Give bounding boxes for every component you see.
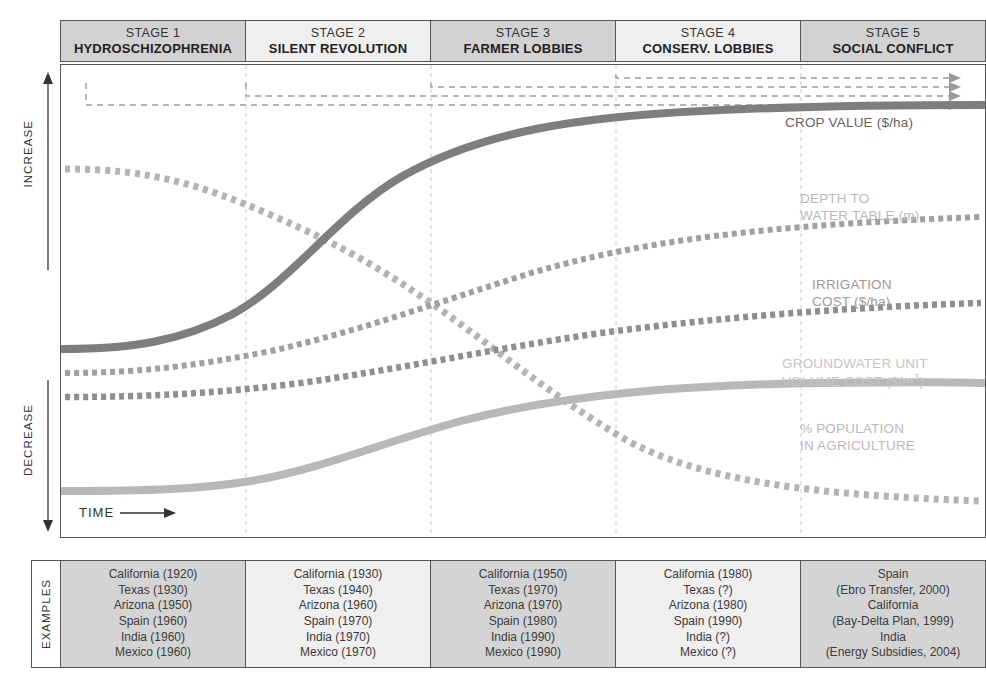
example-entry: Spain — [878, 567, 909, 583]
curve-label-crop-value: CROP VALUE ($/ha) — [785, 114, 913, 131]
example-entry: (Ebro Transfer, 2000) — [836, 583, 949, 599]
increase-arrow-icon — [40, 72, 56, 272]
stage-header-3: STAGE 3 FARMER LOBBIES — [431, 21, 616, 61]
example-entry: (Energy Subsidies, 2004) — [826, 645, 961, 661]
example-entry: Spain (1970) — [304, 614, 373, 630]
curve-label-groundwater-unit-volume-cost: GROUNDWATER UNIT VOLUME COST ($/m3) — [782, 355, 928, 390]
figure-root: STAGE 1 HYDROSCHIZOPHRENIA STAGE 2 SILEN… — [0, 0, 986, 700]
example-entry: Spain (1990) — [674, 614, 743, 630]
label-line-2: VOLUME COST ($/m3) — [782, 372, 928, 390]
stage-header-band: STAGE 1 HYDROSCHIZOPHRENIA STAGE 2 SILEN… — [60, 20, 986, 62]
example-entry: Arizona (1960) — [299, 598, 378, 614]
example-entry: Texas (1940) — [303, 583, 372, 599]
example-entry: California (1980) — [664, 567, 753, 583]
stage-number: STAGE 2 — [311, 26, 366, 41]
axis-label-increase: INCREASE — [22, 120, 34, 188]
time-axis-label: TIME — [79, 505, 176, 520]
stage-name: HYDROSCHIZOPHRENIA — [74, 41, 232, 56]
label-line-2: COST ($/ha) — [812, 293, 892, 310]
example-entry: California (1920) — [109, 567, 198, 583]
example-entry: India (1990) — [491, 630, 555, 646]
stage-number: STAGE 1 — [126, 26, 181, 41]
stage-header-4: STAGE 4 CONSERV. LOBBIES — [616, 21, 801, 61]
label-line-1: IRRIGATION — [812, 276, 892, 293]
example-entry: India (1960) — [121, 630, 185, 646]
stage-number: STAGE 4 — [681, 26, 736, 41]
examples-cell-stage-4: California (1980) Texas (?) Arizona (198… — [616, 561, 801, 667]
example-entry: Mexico (1960) — [115, 645, 191, 661]
stage-name: CONSERV. LOBBIES — [642, 41, 773, 56]
example-entry: Mexico (1970) — [300, 645, 376, 661]
stage-divider-lines — [246, 65, 801, 537]
decrease-arrow-icon — [40, 380, 56, 532]
label-line-1: GROUNDWATER UNIT — [782, 355, 928, 372]
example-entry: India — [880, 630, 906, 646]
example-entry: Arizona (1980) — [669, 598, 748, 614]
example-entry: Texas (1970) — [488, 583, 557, 599]
stage-header-1: STAGE 1 HYDROSCHIZOPHRENIA — [61, 21, 246, 61]
example-entry: Spain (1980) — [489, 614, 558, 630]
stage-name: SILENT REVOLUTION — [269, 41, 407, 56]
example-entry: Mexico (1990) — [485, 645, 561, 661]
example-entry: California — [868, 598, 919, 614]
examples-cell-stage-2: California (1930) Texas (1940) Arizona (… — [246, 561, 431, 667]
example-entry: California (1930) — [294, 567, 383, 583]
label-line-2-text: VOLUME COST ($/m — [782, 374, 914, 389]
axis-label-decrease: DECREASE — [22, 404, 34, 476]
label-line-2: WATER TABLE (m) — [800, 207, 920, 224]
examples-row-header: EXAMPLES — [32, 561, 61, 667]
label-line-1: DEPTH TO — [800, 190, 920, 207]
label-line-2-close: ) — [919, 374, 924, 389]
stage-name: FARMER LOBBIES — [463, 41, 582, 56]
stage-number: STAGE 5 — [866, 26, 921, 41]
curve-label-irrigation-cost: IRRIGATION COST ($/ha) — [812, 276, 892, 311]
example-entry: Texas (?) — [683, 583, 732, 599]
example-entry: India (1970) — [306, 630, 370, 646]
example-entry: Arizona (1970) — [484, 598, 563, 614]
example-entry: Spain (1960) — [119, 614, 188, 630]
examples-table: EXAMPLES California (1920) Texas (1930) … — [31, 560, 986, 668]
examples-cell-stage-1: California (1920) Texas (1930) Arizona (… — [61, 561, 246, 667]
stage-header-5: STAGE 5 SOCIAL CONFLICT — [801, 21, 985, 61]
time-arrow-icon — [120, 508, 176, 518]
time-text: TIME — [79, 505, 114, 520]
stage-header-2: STAGE 2 SILENT REVOLUTION — [246, 21, 431, 61]
stage-number: STAGE 3 — [496, 26, 551, 41]
label-line-2: IN AGRICULTURE — [800, 437, 915, 454]
example-entry: India (?) — [686, 630, 730, 646]
curve-label-depth-to-water-table: DEPTH TO WATER TABLE (m) — [800, 190, 920, 225]
example-entry: California (1950) — [479, 567, 568, 583]
example-entry: Mexico (?) — [680, 645, 736, 661]
example-entry: (Bay-Delta Plan, 1999) — [832, 614, 953, 630]
example-entry: Texas (1930) — [118, 583, 187, 599]
examples-cell-stage-3: California (1950) Texas (1970) Arizona (… — [431, 561, 616, 667]
progression-arrows — [86, 75, 951, 105]
label-line-1: % POPULATION — [800, 420, 915, 437]
stage-name: SOCIAL CONFLICT — [832, 41, 953, 56]
curve-label-pct-population-in-agriculture: % POPULATION IN AGRICULTURE — [800, 420, 915, 455]
examples-label: EXAMPLES — [40, 579, 52, 649]
examples-cell-stage-5: Spain (Ebro Transfer, 2000) California (… — [801, 561, 985, 667]
example-entry: Arizona (1950) — [114, 598, 193, 614]
